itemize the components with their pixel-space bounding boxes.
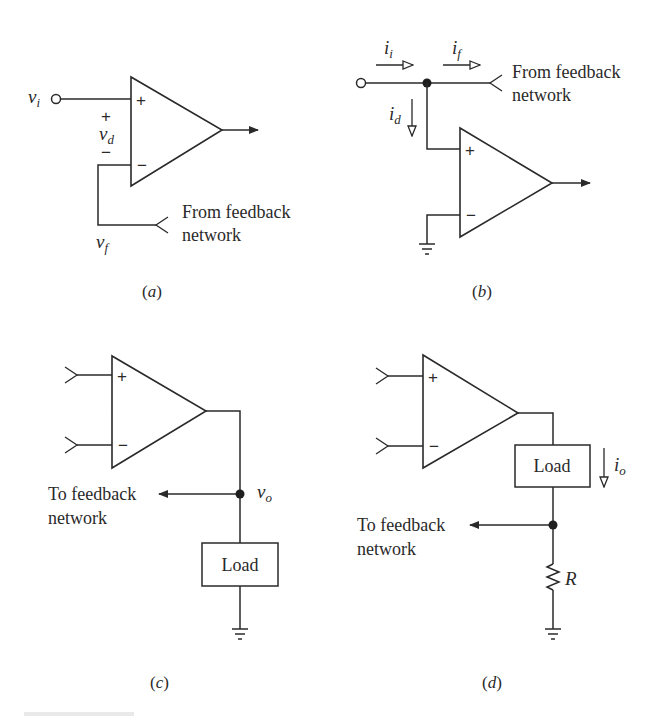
opamp-plus-sign: + <box>136 91 146 110</box>
feedback-text-line1: From feedback <box>182 202 290 222</box>
feedback-text-line1: To feedback <box>357 515 445 535</box>
input-terminal-icon <box>357 79 366 88</box>
vd-minus-sign: − <box>101 143 111 162</box>
feedback-text-line2: network <box>48 508 107 528</box>
input-voltage-label: vi <box>28 86 40 110</box>
connector-icon <box>156 217 168 233</box>
ground-icon <box>545 629 561 639</box>
resistor-icon <box>547 564 559 590</box>
panel-c: + − Load vo To feedback network (c) <box>48 356 278 692</box>
input-connector-plus-icon <box>376 368 388 384</box>
minus-input-wire <box>427 215 460 244</box>
ground-icon <box>419 244 435 254</box>
feedback-text-line2: network <box>182 225 241 245</box>
panel-d: + − Load io R To feedback network (d) <box>357 355 626 692</box>
panel-caption-c: (c) <box>150 673 169 692</box>
load-label: Load <box>534 456 571 476</box>
panel-a: + − vi + vd − vf From feedback network (… <box>28 77 290 301</box>
feedback-text-line1: To feedback <box>48 484 136 504</box>
panel-caption-b: (b) <box>472 282 492 301</box>
current-ii-label: ii <box>384 37 393 61</box>
output-voltage-label: vo <box>257 481 272 505</box>
panel-b: + − ii if id From feedback network (b) <box>357 37 621 301</box>
panel-caption-a: (a) <box>142 282 162 301</box>
current-io-label: io <box>614 454 626 478</box>
ground-icon <box>232 629 248 639</box>
current-id-label: id <box>389 103 401 127</box>
output-wire <box>206 411 240 543</box>
output-node-icon <box>236 490 245 499</box>
feedback-text-line2: network <box>357 539 416 559</box>
opamp-plus-sign: + <box>117 367 127 386</box>
plus-input-wire <box>427 83 460 149</box>
input-connector-minus-icon <box>65 437 77 453</box>
feedback-text-line1: From feedback <box>512 62 620 82</box>
opamp-minus-sign: − <box>466 206 476 225</box>
connector-icon <box>490 75 502 91</box>
current-if-label: if <box>452 37 463 61</box>
opamp-minus-sign: − <box>118 436 128 455</box>
feedback-voltage-label: vf <box>96 231 110 255</box>
opamp-plus-sign: + <box>465 141 475 160</box>
opamp-minus-sign: − <box>429 437 439 456</box>
load-label: Load <box>222 555 259 575</box>
sense-node-icon <box>549 521 558 530</box>
figure-canvas: + − vi + vd − vf From feedback network (… <box>0 0 665 718</box>
input-connector-minus-icon <box>376 438 388 454</box>
cropped-caption-fragment <box>24 712 134 716</box>
opamp-minus-sign: − <box>137 156 147 175</box>
feedback-text-line2: network <box>512 85 571 105</box>
panel-caption-d: (d) <box>482 673 502 692</box>
input-terminal-icon <box>52 95 61 104</box>
resistor-label: R <box>564 568 577 589</box>
output-wire <box>518 413 553 445</box>
opamp-plus-sign: + <box>428 368 438 387</box>
input-connector-plus-icon <box>65 367 77 383</box>
